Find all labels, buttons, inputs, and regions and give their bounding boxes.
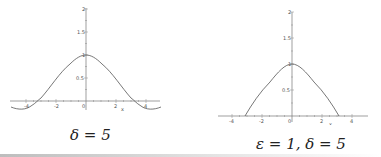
right-caption: ε = 1, δ = 5	[256, 135, 346, 153]
left-xtick-label: 0	[82, 103, 85, 109]
right-ytick-label: 1.5	[283, 35, 291, 41]
right-xtick-label: 4	[350, 118, 353, 124]
left-xtick-label: 2	[114, 103, 117, 109]
left-x-axis-label: x	[121, 106, 124, 112]
right-xtick-label: 0	[288, 118, 291, 124]
left-ytick-label: 1.5	[77, 29, 85, 35]
left-caption: δ = 5	[70, 126, 111, 144]
right-ytick-label: 0.5	[282, 87, 290, 93]
right-plot: -4 -2 0 2 4 x 0.5 1 1.5 2	[190, 0, 381, 125]
right-xtick-label: -2	[259, 118, 264, 124]
left-plot: -4 -2 0 2 4 x 0.5 1 1.5 2	[0, 0, 190, 125]
right-xtick-label: -4	[229, 118, 234, 124]
right-x-axis-label: x	[329, 121, 332, 125]
left-ytick-label: 2	[82, 6, 85, 12]
left-ytick-label: 0.5	[76, 75, 84, 81]
right-ytick-label: 2	[288, 9, 291, 15]
left-xtick-label: -2	[54, 103, 59, 109]
right-xtick-label: 2	[320, 118, 323, 124]
bottom-divider	[0, 154, 381, 157]
